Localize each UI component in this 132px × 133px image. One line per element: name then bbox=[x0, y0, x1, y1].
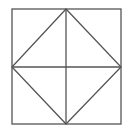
square-diamond-diagram bbox=[0, 0, 132, 133]
